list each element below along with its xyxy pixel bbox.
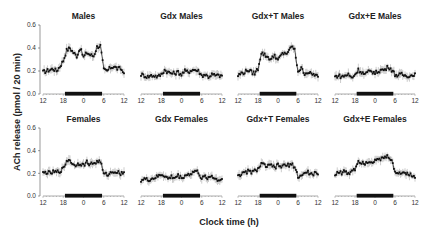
data-point: [62, 61, 64, 63]
data-point: [288, 49, 290, 51]
data-point: [374, 73, 376, 75]
data-point: [155, 177, 157, 179]
data-point: [105, 172, 107, 174]
data-point: [206, 178, 208, 180]
data-point: [177, 173, 179, 175]
x-tick-label: 6: [102, 97, 106, 104]
data-point: [57, 169, 59, 171]
x-axis-label: Clock time (h): [199, 217, 259, 227]
data-point: [399, 171, 401, 173]
data-point: [380, 160, 382, 162]
data-point: [274, 166, 276, 168]
data-point: [280, 167, 282, 169]
data-point: [108, 173, 110, 175]
data-point: [389, 158, 391, 160]
data-point: [218, 74, 220, 76]
data-point: [313, 175, 315, 177]
data-point: [240, 174, 242, 176]
data-point: [298, 177, 300, 179]
data-point: [121, 69, 123, 71]
data-point: [337, 75, 339, 77]
panel-gdx-e-females: Gdx+E Females12180612: [331, 114, 419, 206]
data-point: [250, 173, 252, 175]
data-point: [409, 175, 411, 177]
data-point: [208, 77, 210, 79]
x-tick-label: 0: [276, 199, 280, 206]
data-point: [357, 68, 359, 70]
data-point: [197, 172, 199, 174]
dark-period-bar: [65, 194, 102, 198]
dark-period-bar: [357, 92, 394, 96]
data-point: [179, 175, 181, 177]
data-point: [157, 176, 159, 178]
data-point: [191, 174, 193, 176]
data-point: [414, 72, 416, 74]
data-point: [391, 159, 393, 161]
data-point: [85, 162, 87, 164]
data-point: [90, 53, 92, 55]
data-point: [262, 52, 264, 54]
data-point: [253, 70, 255, 72]
dark-period-bar: [163, 92, 200, 96]
data-point: [98, 159, 100, 161]
data-point: [404, 172, 406, 174]
data-point: [179, 73, 181, 75]
panel-gdx-females: Gdx Females12180612: [137, 114, 226, 206]
data-point: [156, 174, 158, 176]
data-point: [184, 68, 186, 70]
x-tick-label: 12: [137, 97, 145, 104]
data-point: [287, 51, 289, 53]
data-point: [178, 177, 180, 179]
data-point: [353, 168, 355, 170]
data-point: [163, 72, 165, 74]
data-point: [295, 57, 297, 59]
data-point: [148, 77, 150, 79]
data-point: [172, 73, 174, 75]
data-point: [410, 172, 412, 174]
data-point: [373, 71, 375, 73]
data-point: [202, 76, 204, 78]
data-point: [155, 75, 157, 77]
data-point: [175, 74, 177, 76]
data-point: [299, 69, 301, 71]
data-point: [336, 77, 338, 79]
data-point: [102, 59, 104, 61]
data-point: [97, 161, 99, 163]
data-point: [406, 172, 408, 174]
data-point: [341, 174, 343, 176]
data-point: [273, 165, 275, 167]
data-point: [206, 75, 208, 77]
data-point: [317, 174, 319, 176]
data-point: [385, 157, 387, 159]
data-point: [211, 175, 213, 177]
data-point: [119, 173, 121, 175]
data-point: [47, 68, 49, 70]
data-point: [197, 69, 199, 71]
data-point: [340, 170, 342, 172]
data-point: [355, 166, 357, 168]
data-point: [257, 69, 259, 71]
data-point: [386, 65, 388, 67]
data-point: [250, 69, 252, 71]
data-point: [88, 164, 90, 166]
x-tick-label: 18: [60, 97, 68, 104]
panel-gdx-t-females: Gdx+T Females12180612: [234, 114, 322, 206]
data-point: [115, 66, 117, 68]
data-point: [296, 171, 298, 173]
data-point: [339, 73, 341, 75]
dark-period-bar: [260, 194, 297, 198]
x-tick-label: 12: [218, 97, 226, 104]
panels: Males0.00.20.40.612180612Gdx Males121806…: [27, 11, 419, 206]
panel-title: Gdx Females: [155, 114, 208, 124]
data-point: [63, 57, 65, 59]
data-point: [303, 72, 305, 74]
data-point: [346, 74, 348, 76]
data-point: [273, 57, 275, 59]
data-point: [87, 163, 89, 165]
data-point: [259, 59, 261, 61]
data-point: [86, 160, 88, 162]
data-point: [405, 174, 407, 176]
data-point: [215, 178, 217, 180]
data-point: [316, 74, 318, 76]
data-point: [259, 166, 261, 168]
